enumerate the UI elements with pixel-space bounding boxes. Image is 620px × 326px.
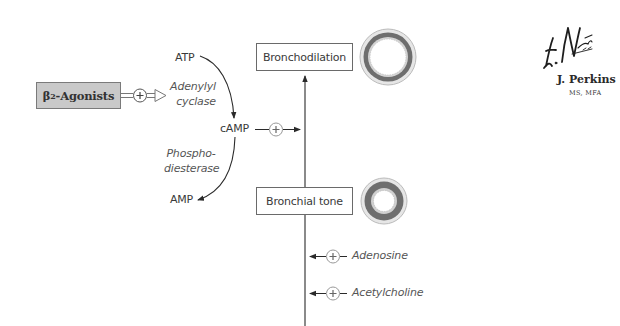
enzyme1-line1: Adenylyl [167,79,219,94]
adenosine-stimulation-arrow [310,250,347,263]
adenosine-label: Adenosine [352,249,408,262]
bronchial-tone-box: Bronchial tone [256,187,353,215]
amp-label: AMP [170,193,193,206]
illustrator-name: J. Perkins [557,73,616,86]
airway-normal-icon [361,178,407,224]
phosphodiesterase-label: Phospho- diesterase [164,146,218,176]
adenylyl-cyclase-label: Adenylyl cyclase [167,79,219,109]
bronchodilation-box: Bronchodilation [256,43,353,71]
camp-label: cAMP [220,122,249,135]
drug-label-prefix: β [43,89,50,103]
atp-label: ATP [175,51,194,64]
enzyme1-line2: cyclase [167,94,219,109]
camp-stimulation-arrow [255,123,300,136]
enzyme2-line2: diesterase [164,161,218,176]
enzyme2-line1: Phospho- [164,146,218,161]
acetylcholine-stimulation-arrow [310,287,347,300]
airway-dilated-icon [360,29,416,85]
acetylcholine-label: Acetylcholine [352,286,423,299]
agonist-stimulation-arrow [121,89,166,102]
illustrator-credentials: MS, MFA [569,89,601,97]
drug-label-suffix: -Agonists [56,89,115,103]
beta2-agonists-box: β2-Agonists [36,82,121,109]
netter-signature-icon [544,28,592,68]
